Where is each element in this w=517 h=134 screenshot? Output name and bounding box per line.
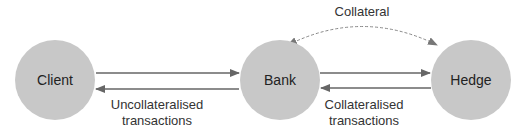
node-hedge-label: Hedge — [450, 72, 491, 88]
node-hedge: Hedge — [431, 40, 511, 120]
uncollateralised-transactions-label: Uncollateralised transactions — [97, 97, 217, 129]
collateral-label: Collateral — [320, 4, 404, 20]
node-client-label: Client — [37, 72, 73, 88]
collateral-dashed-arrow — [288, 27, 437, 46]
node-client: Client — [15, 40, 95, 120]
node-bank: Bank — [240, 40, 320, 120]
node-bank-label: Bank — [264, 72, 296, 88]
collateralised-transactions-label: Collateralised transactions — [312, 97, 416, 129]
